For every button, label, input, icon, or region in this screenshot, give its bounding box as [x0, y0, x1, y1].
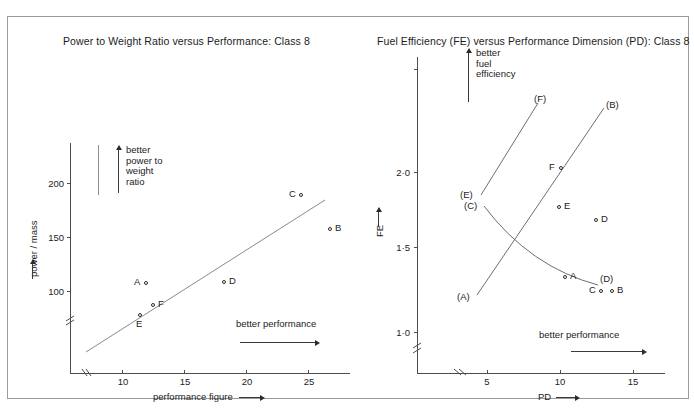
chart-title-right: Fuel Efficiency (FE) versus Performance …: [377, 35, 689, 47]
datapoint-label-left-B: B: [335, 222, 341, 233]
x-tick-right-5: [487, 370, 488, 374]
datapoint-right-A: [563, 275, 567, 279]
better-performance-note-left: better performance: [236, 319, 316, 330]
datapoint-label-right-F: F: [549, 161, 555, 172]
x-tick-left-20: [246, 370, 247, 374]
better-performance-arrow-left: [240, 342, 316, 343]
datapoint-left-B: [328, 227, 332, 231]
curve-label-C: (C): [464, 200, 477, 211]
datapoint-label-right-B: B: [617, 284, 623, 295]
datapoint-label-right-E: E: [564, 200, 570, 211]
x-axis-right: [417, 373, 665, 374]
datapoint-right-D: [594, 218, 598, 222]
x-ticklabel-left-15: 15: [177, 376, 193, 387]
x-ticklabel-left-10: 10: [115, 376, 131, 387]
y-ticklabel-left-200: 200: [34, 178, 64, 189]
y-ticklabel-right-1-0: 1·0: [380, 327, 410, 338]
x-ticklabel-right-15: 15: [626, 376, 640, 387]
datapoint-label-left-D: D: [229, 275, 236, 286]
x-tick-left-15: [184, 370, 185, 374]
datapoint-label-right-C: C: [589, 284, 596, 295]
curve-label-A: (A): [457, 291, 470, 302]
y-axis-title-arrow-left: [32, 263, 33, 279]
x-axis-title-arrow-left: [239, 397, 261, 398]
datapoint-label-left-E: E: [136, 318, 142, 329]
datapoint-label-left-F: F: [158, 298, 164, 309]
x-ticklabel-right-5: 5: [480, 376, 494, 387]
chart-title-left: Power to Weight Ratio versus Performance…: [63, 35, 310, 47]
curve-label-E: (E): [460, 189, 473, 200]
datapoint-left-A: [144, 281, 148, 285]
y-axis-right: [417, 57, 418, 373]
figure-root: Power to Weight Ratio versus Performance…: [0, 0, 694, 412]
datapoint-left-D: [222, 280, 226, 284]
curve-label-D: (D): [600, 273, 613, 284]
y-ticklabel-right-2-0: 2·0: [380, 167, 410, 178]
datapoint-right-F: [559, 166, 563, 170]
better-efficiency-note: better fuel efficiency: [476, 48, 515, 80]
better-efficiency-arrow: [468, 52, 469, 102]
y-ticklabel-right-1-5: 1·5: [380, 242, 410, 253]
y-tick-right-1-5: [414, 247, 418, 248]
y-axis-left: [70, 143, 71, 373]
better-performance-note-right: better performance: [539, 330, 619, 341]
x-ticklabel-left-25: 25: [301, 376, 317, 387]
better-ratio-arrow: [118, 149, 119, 193]
note-rule-left: [98, 145, 99, 195]
right-chart-overlay: [360, 17, 687, 398]
datapoint-right-B: [610, 289, 614, 293]
x-axis-title-left: performance figure: [153, 391, 233, 402]
datapoint-label-left-C: C: [289, 188, 296, 199]
y-tick-left-200: [67, 183, 71, 184]
x-tick-left-10: [122, 370, 123, 374]
x-ticklabel-right-10: 10: [553, 376, 567, 387]
y-tick-right-2-0: [414, 172, 418, 173]
datapoint-left-F: [151, 303, 155, 307]
datapoint-right-E: [557, 205, 561, 209]
x-tick-right-15: [633, 370, 634, 374]
y-axis-title-arrow-right: [378, 211, 379, 227]
chart-power-to-weight: Power to Weight Ratio versus Performance…: [8, 17, 360, 398]
datapoint-right-C: [599, 289, 603, 293]
datapoint-left-C: [299, 193, 303, 197]
x-axis-title-right: PD: [538, 391, 551, 402]
chart-fuel-efficiency: Fuel Efficiency (FE) versus Performance …: [360, 17, 687, 398]
x-ticklabel-left-20: 20: [239, 376, 255, 387]
y-tick-left-150: [67, 237, 71, 238]
y-axis-title-left: power / mass: [28, 221, 39, 278]
x-tick-left-25: [308, 370, 309, 374]
datapoint-label-left-A: A: [134, 276, 140, 287]
y-ticklabel-left-100: 100: [34, 286, 64, 297]
x-tick-right-10: [560, 370, 561, 374]
x-axis-title-arrow-right: [556, 397, 576, 398]
y-tick-right-1-0: [414, 332, 418, 333]
better-performance-arrow-right: [571, 351, 643, 352]
y-axis-title-right: FE: [374, 225, 385, 237]
datapoint-label-right-D: D: [601, 213, 608, 224]
y-tick-left-100: [67, 291, 71, 292]
figure-frame: Power to Weight Ratio versus Performance…: [7, 16, 689, 399]
datapoint-left-E: [138, 313, 142, 317]
left-chart-overlay: [8, 17, 360, 398]
datapoint-label-right-A: A: [570, 270, 576, 281]
y-tick-right-top: [414, 69, 418, 70]
better-ratio-note: better power to weight ratio: [126, 145, 162, 187]
curve-label-F: (F): [534, 93, 546, 104]
curve-label-B: (B): [606, 99, 619, 110]
